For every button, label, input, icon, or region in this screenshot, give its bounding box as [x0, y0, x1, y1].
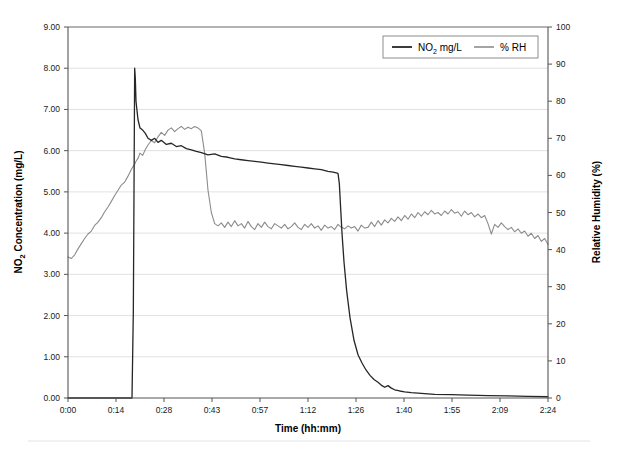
- y-right-tick-label: 30: [556, 282, 566, 292]
- x-tick-label: 2:09: [492, 405, 509, 415]
- x-title-text: Time (hh:mm): [275, 423, 341, 434]
- legend-no2-suffix: mg/L: [437, 42, 462, 53]
- x-tick-label: 0:00: [60, 405, 77, 415]
- x-tick-label: 1:12: [300, 405, 317, 415]
- y-right-tick-label: 80: [556, 96, 566, 106]
- y-axis-right-title: Relative Humidity (%): [591, 161, 602, 263]
- x-tick-label: 0:57: [252, 405, 269, 415]
- y-right-tick-label: 0: [556, 393, 561, 403]
- y-left-tick-label: 6.00: [43, 146, 60, 156]
- x-tick-label: 0:14: [108, 405, 125, 415]
- y-right-tick-label: 70: [556, 133, 566, 143]
- y-left-tick-label: 0.00: [43, 393, 60, 403]
- y-axis-left-ticks: 0.001.002.003.004.005.006.007.008.009.00: [43, 22, 68, 403]
- y-right-tick-label: 60: [556, 170, 566, 180]
- y-right-tick-label: 10: [556, 356, 566, 366]
- chart-container: 0.001.002.003.004.005.006.007.008.009.00…: [0, 0, 618, 451]
- y-left-tick-label: 8.00: [43, 63, 60, 73]
- y-left-tick-label: 9.00: [43, 22, 60, 32]
- x-tick-label: 1:26: [348, 405, 365, 415]
- y-right-tick-label: 90: [556, 59, 566, 69]
- x-tick-label: 1:55: [444, 405, 461, 415]
- x-tick-label: 0:28: [156, 405, 173, 415]
- x-tick-label: 0:43: [204, 405, 221, 415]
- y-left-tick-label: 5.00: [43, 187, 60, 197]
- y-left-tick-label: 2.00: [43, 311, 60, 321]
- y-left-title-prefix: NO: [13, 258, 24, 273]
- y-right-tick-label: 100: [556, 22, 570, 32]
- x-tick-label: 2:24: [540, 405, 557, 415]
- y-right-tick-label: 50: [556, 208, 566, 218]
- x-axis-title: Time (hh:mm): [275, 423, 341, 434]
- chart-canvas: 0.001.002.003.004.005.006.007.008.009.00…: [0, 0, 618, 451]
- y-right-tick-label: 40: [556, 245, 566, 255]
- y-left-title-suffix: Concentration (mg/L): [13, 150, 24, 254]
- x-axis-ticks: 0:000:140:280:430:571:121:261:401:552:09…: [60, 398, 557, 415]
- gridlines-group: [68, 27, 548, 357]
- legend-label-rh: % RH: [500, 42, 526, 53]
- y-left-tick-label: 3.00: [43, 269, 60, 279]
- chart-legend[interactable]: NO2 mg/L % RH: [383, 36, 538, 58]
- x-tick-label: 1:40: [396, 405, 413, 415]
- y-axis-right-ticks: 0102030405060708090100: [548, 22, 570, 403]
- y-axis-left-title: NO2 Concentration (mg/L): [13, 150, 27, 273]
- axis-frame: [68, 27, 548, 398]
- legend-no2-prefix: NO: [418, 42, 433, 53]
- y-left-tick-label: 1.00: [43, 352, 60, 362]
- y-left-tick-label: 7.00: [43, 104, 60, 114]
- y-left-tick-label: 4.00: [43, 228, 60, 238]
- series-line-rh: [68, 126, 548, 258]
- y-right-tick-label: 20: [556, 319, 566, 329]
- svg-text:NO2 Concentration (mg/L): NO2 Concentration (mg/L): [13, 150, 27, 273]
- y-right-title-text: Relative Humidity (%): [591, 161, 602, 263]
